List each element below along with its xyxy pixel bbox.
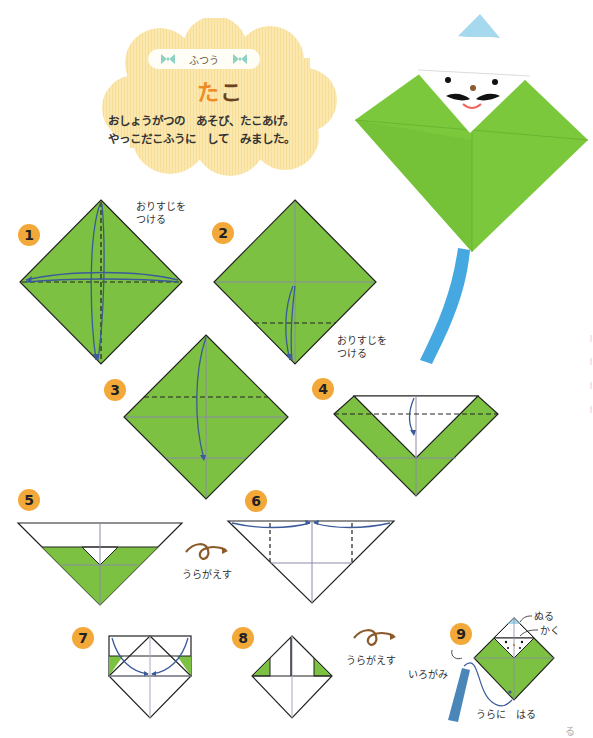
step-badge-3: 3 xyxy=(104,379,126,401)
step-9-label-stick-back: うらに はる xyxy=(476,708,536,721)
step-badge-4: 4 xyxy=(312,378,334,400)
flip-over-icon xyxy=(184,542,230,564)
ribbon-icon xyxy=(161,54,175,64)
step-9-label-draw: かく xyxy=(540,624,560,637)
difficulty-badge: ふつう xyxy=(148,49,260,69)
step-8-diagram xyxy=(250,634,334,720)
step-9-label-colored-paper: いろがみ xyxy=(408,668,448,681)
flip-label-8: うらがえす xyxy=(346,654,396,667)
step-2-note: おりすじを つける xyxy=(337,334,387,360)
step-3-diagram xyxy=(124,333,290,501)
ribbon-icon xyxy=(233,54,247,64)
intro-text: おしょうがつの あそび、たこあげ。 やっこだこふうに して みました。 xyxy=(108,112,338,148)
step-7-diagram xyxy=(108,634,192,720)
step-badge-6: 6 xyxy=(245,490,267,512)
margin-marks xyxy=(590,330,592,420)
difficulty-label: ふつう xyxy=(189,52,219,67)
step-9-label-paint: ぬる xyxy=(534,610,554,623)
step-1-note: おりすじを つける xyxy=(136,200,186,226)
step-5-diagram xyxy=(18,521,184,605)
flip-label-5: うらがえす xyxy=(182,568,232,581)
step-4-diagram xyxy=(334,394,500,498)
step-badge-7: 7 xyxy=(72,627,94,649)
step-6-diagram xyxy=(228,519,396,605)
page-edge-fragment: る xyxy=(565,725,575,738)
step-badge-5: 5 xyxy=(18,489,40,511)
flip-over-icon xyxy=(352,628,398,650)
